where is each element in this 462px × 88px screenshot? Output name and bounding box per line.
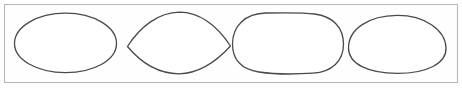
egg-oval-shape: oval [349,15,447,73]
rounded-rectangle-shape: rounded rectangle [233,13,344,74]
wide-ellipse: ellipse [15,13,117,72]
shapes-figure: ellipselensrounded rectangleoval [0,0,462,88]
figure-container: ellipselensrounded rectangleoval [0,0,462,88]
